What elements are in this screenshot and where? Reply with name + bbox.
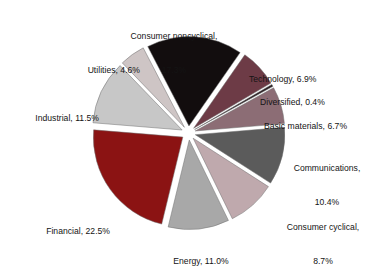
- slice-label-line1: Financial, 22.5%: [0, 226, 110, 237]
- slice-label-industrial: Industrial, 11.5%: [0, 91, 99, 147]
- slice-label-financial: Financial, 22.5%: [0, 204, 110, 260]
- slice-label-line1: Basic materials, 6.7%: [264, 121, 389, 132]
- slice-label-line1: Consumer cyclical,: [259, 222, 387, 233]
- slice-label-line1: Industrial, 11.5%: [0, 113, 99, 124]
- slice-label-consumer-cyclical: Consumer cyclical, 8.7%: [259, 200, 387, 270]
- slice-label-utilities: Utilities, 4.6%: [0, 43, 140, 99]
- slice-label-energy: Energy, 11.0%: [141, 234, 261, 270]
- slice-label-line1: Consumer noncyclical,: [94, 31, 254, 42]
- slice-label-line1: Communications,: [265, 163, 389, 174]
- slice-label-line1: Energy, 11.0%: [141, 256, 261, 267]
- slice-label-line1: Utilities, 4.6%: [0, 65, 140, 76]
- slice-label-line2: 8.7%: [259, 256, 387, 267]
